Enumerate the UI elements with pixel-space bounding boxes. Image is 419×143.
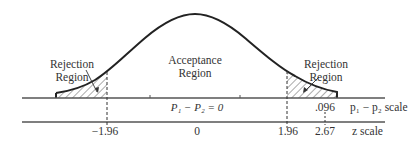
z-tick-neg196: −1.96 bbox=[92, 125, 119, 138]
acceptance-line-1: Acceptance bbox=[157, 54, 233, 67]
p-diff-value-label: .096 bbox=[315, 101, 335, 114]
z-tick-0: 0 bbox=[194, 125, 200, 138]
right-rejection-line-2: Region bbox=[296, 71, 356, 84]
left-rejection-label: Rejection Region bbox=[42, 58, 102, 84]
right-rejection-line-1: Rejection bbox=[296, 58, 356, 71]
right-rejection-label: Rejection Region bbox=[296, 58, 356, 84]
acceptance-region-label: Acceptance Region bbox=[157, 54, 233, 80]
left-rejection-line-1: Rejection bbox=[42, 58, 102, 71]
z-scale-label: z scale bbox=[352, 125, 383, 138]
z-tick-267: 2.67 bbox=[315, 125, 335, 138]
z-tick-196: 1.96 bbox=[278, 125, 298, 138]
left-rejection-line-2: Region bbox=[42, 71, 102, 84]
null-hypothesis-label: P₁ − P₂ = 0 bbox=[152, 101, 242, 114]
acceptance-line-2: Region bbox=[157, 67, 233, 80]
p-diff-scale-label: p₁ − p₂ scale bbox=[350, 101, 408, 114]
